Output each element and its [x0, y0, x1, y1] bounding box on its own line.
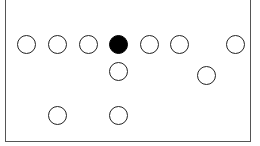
circle-marker	[226, 35, 245, 54]
circle-marker	[140, 35, 159, 54]
circle-marker	[109, 62, 128, 81]
circle-marker	[17, 35, 36, 54]
circle-marker	[79, 35, 98, 54]
filled-circle-marker	[109, 35, 128, 54]
circle-marker	[48, 106, 67, 125]
circle-marker	[170, 35, 189, 54]
circle-marker	[48, 35, 67, 54]
circle-marker	[109, 106, 128, 125]
circle-marker	[197, 66, 216, 85]
